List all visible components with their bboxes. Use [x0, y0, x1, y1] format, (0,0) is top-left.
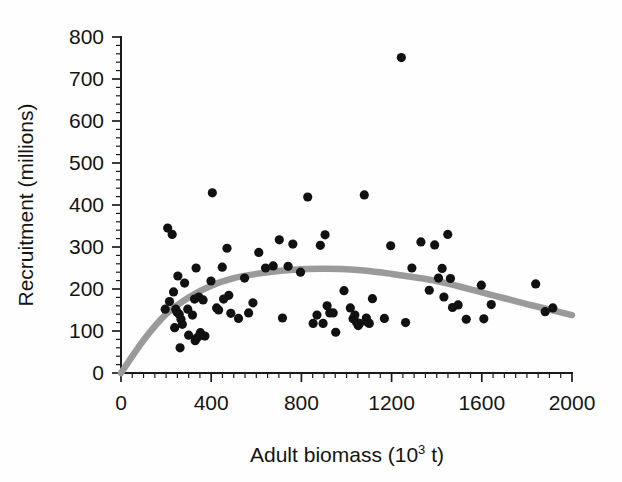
data-point: [360, 190, 369, 199]
data-point: [200, 331, 209, 340]
data-point: [303, 192, 312, 201]
data-point: [479, 314, 488, 323]
y-axis-ticks: [112, 37, 121, 373]
data-point: [284, 262, 293, 271]
data-point: [240, 273, 249, 282]
data-point: [531, 279, 540, 288]
x-tick-label: 400: [194, 391, 229, 414]
data-point: [224, 291, 233, 300]
data-point: [178, 320, 187, 329]
y-tick-label: 200: [69, 277, 104, 300]
data-point: [380, 314, 389, 323]
data-point: [208, 188, 217, 197]
data-point: [165, 297, 174, 306]
data-point: [248, 298, 257, 307]
y-tick-label: 600: [69, 109, 104, 132]
x-tick-label: 800: [284, 391, 319, 414]
data-point: [296, 268, 305, 277]
data-point: [439, 292, 448, 301]
data-point: [548, 303, 557, 312]
data-point: [312, 310, 321, 319]
y-tick-label: 500: [69, 151, 104, 174]
y-axis-title: Recruitment (millions): [14, 103, 37, 306]
data-point: [234, 314, 243, 323]
y-axis-tick-labels: 0100200300400500600700800: [69, 25, 104, 384]
data-point: [477, 281, 486, 290]
data-point: [175, 343, 184, 352]
data-point: [180, 279, 189, 288]
scatter-plot-figure: 0100200300400500600700800 04008001200160…: [0, 0, 622, 482]
data-point: [438, 264, 447, 273]
data-point: [416, 237, 425, 246]
data-point: [339, 286, 348, 295]
data-point: [425, 286, 434, 295]
data-point: [168, 230, 177, 239]
data-point: [254, 248, 263, 257]
data-point: [318, 319, 327, 328]
data-point: [397, 53, 406, 62]
y-tick-label: 100: [69, 319, 104, 342]
x-tick-label: 0: [115, 391, 127, 414]
data-point: [462, 315, 471, 324]
data-point: [331, 328, 340, 337]
x-tick-label: 1600: [458, 391, 505, 414]
data-point: [430, 240, 439, 249]
data-point: [386, 241, 395, 250]
data-point: [309, 319, 318, 328]
data-point: [454, 300, 463, 309]
data-point: [222, 244, 231, 253]
data-point: [446, 274, 455, 283]
data-point: [269, 261, 278, 270]
data-point: [443, 230, 452, 239]
stock-recruitment-scatter-chart: 0100200300400500600700800 04008001200160…: [0, 0, 622, 482]
x-axis-title: Adult biomass (103 t): [250, 442, 444, 466]
data-point: [218, 263, 227, 272]
data-point: [407, 263, 416, 272]
data-point: [329, 308, 338, 317]
y-tick-label: 300: [69, 235, 104, 258]
data-points: [161, 53, 558, 352]
data-point: [365, 319, 374, 328]
data-point: [191, 263, 200, 272]
data-point: [244, 308, 253, 317]
data-point: [434, 273, 443, 282]
data-point: [275, 235, 284, 244]
x-tick-label: 1200: [368, 391, 415, 414]
data-point: [169, 287, 178, 296]
data-point: [214, 305, 223, 314]
y-tick-label: 800: [69, 25, 104, 48]
data-point: [198, 295, 207, 304]
data-point: [226, 309, 235, 318]
x-tick-label: 2000: [549, 391, 596, 414]
data-point: [487, 300, 496, 309]
data-point: [401, 318, 410, 327]
y-tick-label: 0: [92, 361, 104, 384]
y-tick-label: 700: [69, 67, 104, 90]
x-axis-ticks: [121, 373, 572, 382]
y-tick-label: 400: [69, 193, 104, 216]
data-point: [188, 310, 197, 319]
data-point: [320, 230, 329, 239]
data-point: [288, 239, 297, 248]
data-point: [278, 313, 287, 322]
x-axis-tick-labels: 0400800120016002000: [115, 391, 595, 414]
data-point: [173, 271, 182, 280]
axes: [121, 37, 572, 373]
data-point: [368, 294, 377, 303]
data-point: [206, 276, 215, 285]
data-point: [316, 241, 325, 250]
